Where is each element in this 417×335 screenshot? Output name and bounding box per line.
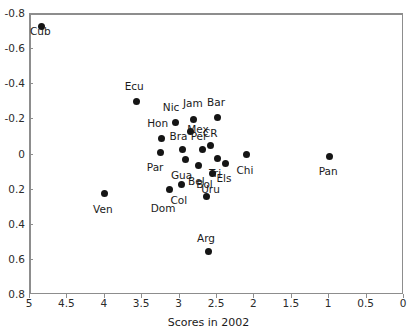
- scatter-chart: CubEcuNicJamBarHonMexPerCRBraParGuaBelTr…: [0, 0, 417, 335]
- y-tick-label: -0.8: [5, 7, 26, 19]
- data-point: [101, 190, 108, 197]
- y-tick-label: -0.4: [5, 77, 26, 89]
- data-point-label: Chi: [236, 165, 253, 176]
- data-point: [214, 155, 221, 162]
- data-point: [195, 162, 202, 169]
- y-tick-mark: [29, 48, 33, 49]
- data-point: [178, 181, 185, 188]
- data-point: [166, 186, 173, 193]
- data-point: [157, 149, 164, 156]
- data-point: [133, 98, 140, 105]
- data-point: [326, 153, 333, 160]
- data-point-label: Pan: [319, 166, 338, 177]
- data-point: [203, 193, 210, 200]
- data-point: [172, 119, 179, 126]
- x-tick-label: 4: [100, 297, 107, 309]
- y-tick-label: -0.6: [5, 42, 26, 54]
- data-point: [207, 142, 214, 149]
- data-point: [158, 135, 165, 142]
- y-tick-mark: [29, 118, 33, 119]
- x-tick-label: 5: [26, 297, 33, 309]
- y-tick-label: 0: [18, 148, 25, 160]
- x-axis-title: Scores in 2002: [0, 316, 417, 329]
- y-tick-mark: [29, 224, 33, 225]
- y-tick-label: -0.2: [5, 112, 26, 124]
- horizontal-zero-reference-line: [30, 14, 402, 15]
- data-point: [182, 156, 189, 163]
- y-tick-mark: [29, 189, 33, 190]
- x-tick-label: 1: [325, 297, 332, 309]
- data-point-label: Hon: [147, 118, 168, 129]
- data-point: [205, 248, 212, 255]
- x-tick-label: 3.5: [133, 297, 150, 309]
- data-point-label: Bol: [196, 179, 213, 190]
- y-tick-label: 0.2: [8, 183, 25, 195]
- data-point-label: Jam: [183, 98, 203, 109]
- data-point: [214, 114, 221, 121]
- data-point-label: CR: [203, 128, 218, 139]
- y-tick-label: 0.4: [8, 218, 25, 230]
- data-point: [243, 151, 250, 158]
- x-tick-label: 2: [250, 297, 257, 309]
- data-point-label: Ecu: [125, 81, 144, 92]
- data-point: [179, 146, 186, 153]
- data-point-label: Arg: [197, 233, 215, 244]
- x-tick-label: 2.5: [208, 297, 225, 309]
- x-tick-label: 0: [400, 297, 407, 309]
- y-tick-mark: [29, 154, 33, 155]
- plot-area: CubEcuNicJamBarHonMexPerCRBraParGuaBelTr…: [29, 13, 403, 294]
- data-point-label: Nic: [163, 102, 180, 113]
- x-tick-label: 0.5: [357, 297, 374, 309]
- x-tick-label: 3: [175, 297, 182, 309]
- data-point-label: Bra: [170, 131, 188, 142]
- data-point: [199, 146, 206, 153]
- data-point-label: Dom: [151, 203, 176, 214]
- y-tick-label: 0.8: [8, 288, 25, 300]
- x-tick-label: 4.5: [58, 297, 75, 309]
- y-tick-label: 0.6: [8, 253, 25, 265]
- data-point: [222, 160, 229, 167]
- data-point-label: Bar: [207, 97, 225, 108]
- y-tick-mark: [29, 83, 33, 84]
- y-tick-mark: [29, 259, 33, 260]
- data-point-label: Par: [147, 162, 164, 173]
- x-tick-label: 1.5: [282, 297, 299, 309]
- data-point-label: Ven: [93, 204, 112, 215]
- data-point-label: Cub: [30, 26, 51, 37]
